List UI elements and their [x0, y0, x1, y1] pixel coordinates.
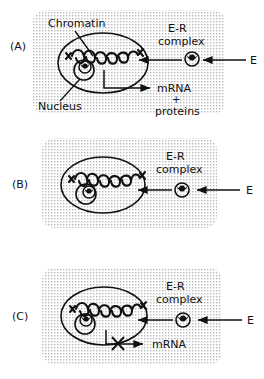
- er-complex-label-line1: E-R: [166, 150, 185, 163]
- panel-a: (A) Chromatin Nucleus E-R co: [0, 0, 264, 126]
- panel-c: (C) E-R complex E: [0, 254, 264, 379]
- estrogen-label: E: [247, 314, 254, 327]
- er-complex-label-line1: E-R: [166, 280, 185, 293]
- output-mrna-label: mRNA: [152, 338, 187, 351]
- er-complex-label-line2: complex: [156, 163, 203, 176]
- estrogen-label: E: [250, 54, 257, 67]
- panel-letter: (C): [12, 310, 28, 323]
- output-proteins-label: proteins: [155, 105, 200, 118]
- panel-letter: (A): [10, 40, 26, 53]
- panel-b: (B) E-R complex E: [0, 128, 264, 254]
- output-plus-label: +: [172, 94, 180, 105]
- figure-root: (A) Chromatin Nucleus E-R co: [0, 0, 264, 379]
- er-complex-label-line2: complex: [156, 293, 203, 306]
- er-complex-label-line2: complex: [158, 35, 205, 48]
- nucleus-label: Nucleus: [38, 100, 82, 113]
- estrogen-label: E: [246, 184, 253, 197]
- chromatin-label: Chromatin: [48, 17, 105, 30]
- panel-background: [42, 138, 217, 228]
- panel-letter: (B): [12, 178, 28, 191]
- panel-background: [42, 268, 222, 364]
- er-complex-label-line1: E-R: [168, 22, 187, 35]
